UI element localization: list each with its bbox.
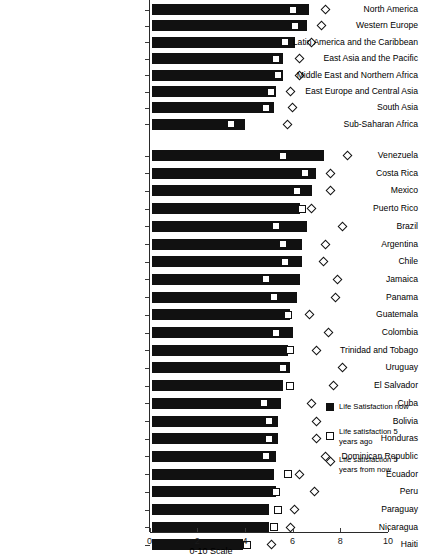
legend-label-five-years-from-now: Life satisfaction 5 years from now (339, 455, 405, 474)
open-diamond-icon (326, 457, 336, 467)
x-axis-tick-label: 8 (328, 536, 352, 546)
marker-five-years-ago (267, 88, 275, 96)
category-label: South Asia (277, 102, 422, 112)
bar-now (152, 380, 284, 391)
category-label: Chile (277, 256, 422, 266)
category-label: Venezuela (277, 150, 422, 160)
x-axis-tick (293, 528, 294, 532)
category-label: Guatemala (277, 309, 422, 319)
category-label: Argentina (277, 239, 422, 249)
x-axis-tick-label: 6 (281, 536, 305, 546)
marker-five-years-ago (262, 452, 270, 460)
category-label: El Salvador (277, 380, 422, 390)
marker-five-years-ago (262, 104, 270, 112)
category-label: Middle East and Northern Africa (277, 70, 422, 80)
x-axis-tick-label: 0 (138, 536, 162, 546)
x-axis-tick-label: 2 (185, 536, 209, 546)
filled-square-icon (326, 403, 334, 411)
bar-now (152, 416, 279, 427)
category-label: Jamaica (277, 274, 422, 284)
x-axis-tick (388, 528, 389, 532)
legend-item-five-years-ago: Life satisfaction 5 years ago (326, 427, 405, 446)
legend-item-five-years-from-now: Life satisfaction 5 years from now (326, 455, 405, 474)
marker-five-years-ago (265, 417, 273, 425)
x-axis-tick-label: 10 (376, 536, 400, 546)
bar-now (152, 53, 284, 64)
category-label: Colombia (277, 327, 422, 337)
category-label: Sub-Saharan Africa (277, 119, 422, 129)
bar-now (152, 345, 288, 356)
bar-now (152, 37, 295, 48)
category-label: Paraguay (277, 504, 422, 514)
x-axis-tick (340, 528, 341, 532)
category-label: East Asia and the Pacific (277, 53, 422, 63)
legend-item-now: Life Satisfaction now (326, 402, 411, 412)
marker-five-years-ago (262, 275, 270, 283)
bar-now (152, 504, 269, 515)
category-label: Brazil (277, 221, 422, 231)
category-label: Panama (277, 292, 422, 302)
legend-label-now: Life Satisfaction now (339, 402, 411, 412)
life-satisfaction-chart: North AmericaWestern EuropeLatin America… (0, 0, 422, 560)
category-label: Peru (277, 486, 422, 496)
category-label: Western Europe (277, 20, 422, 30)
category-label: Trinidad and Tobago (277, 345, 422, 355)
x-axis-tick (150, 528, 151, 532)
legend-label-five-years-ago: Life satisfaction 5 years ago (339, 427, 405, 446)
x-axis-label: 0-10 Scale (0, 546, 422, 556)
marker-five-years-ago (260, 399, 268, 407)
category-label: Costa Rica (277, 168, 422, 178)
bar-now (152, 70, 284, 81)
bar-now (152, 86, 276, 97)
x-axis-tick-label: 4 (233, 536, 257, 546)
bar-now (152, 451, 276, 462)
category-label: Bolivia (277, 416, 422, 426)
marker-five-years-ago (265, 435, 273, 443)
x-axis-line (150, 532, 389, 533)
bar-now (152, 362, 291, 373)
category-label: Mexico (277, 185, 422, 195)
category-label: East Europe and Central Asia (277, 86, 422, 96)
category-label: Nicaragua (277, 522, 422, 532)
bar-now (152, 309, 291, 320)
x-axis-tick (245, 528, 246, 532)
open-square-icon (326, 432, 334, 440)
category-label: Latin America and the Caribbean (277, 37, 422, 47)
category-label: Puerto Rico (277, 203, 422, 213)
x-axis-tick (197, 528, 198, 532)
bar-now (152, 102, 274, 113)
category-label: North America (277, 4, 422, 14)
y-axis-line (149, 0, 150, 532)
bar-now (152, 469, 274, 480)
category-label: Uruguay (277, 362, 422, 372)
plot-area: North AmericaWestern EuropeLatin America… (0, 0, 422, 560)
bar-now (152, 433, 279, 444)
marker-five-years-ago (227, 120, 235, 128)
bar-now (152, 486, 276, 497)
